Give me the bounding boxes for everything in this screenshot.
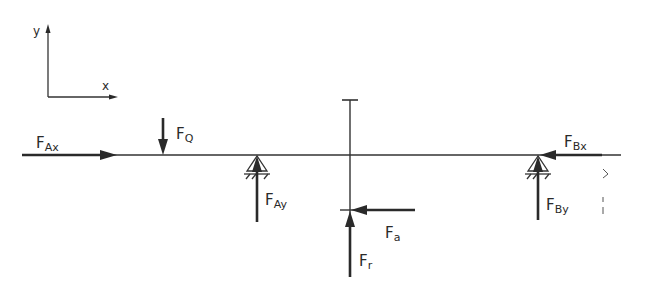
arrowhead-up-icon: [533, 156, 543, 172]
coordinate-axes: y x: [33, 24, 118, 100]
force-f-a: Fa: [351, 205, 415, 244]
y-axis-label: y: [33, 24, 40, 38]
x-axis-label: x: [102, 79, 109, 93]
force-f-bx: FBx: [540, 133, 602, 160]
svg-text:FQ: FQ: [176, 125, 194, 145]
arrowhead-up-icon: [345, 211, 355, 227]
arrowhead-right-icon: [100, 150, 117, 160]
x-axis-arrowhead-icon: [109, 95, 118, 100]
force-f-ax: FAx: [22, 134, 117, 160]
svg-text:Fr: Fr: [359, 252, 373, 272]
force-f-r: Fr: [345, 211, 373, 277]
force-f-q: FQ: [158, 118, 194, 155]
force-f-ay: FAy: [252, 156, 287, 222]
arrowhead-left-icon: [540, 150, 556, 160]
residual-marks: [603, 169, 608, 214]
svg-text:FBy: FBy: [546, 196, 569, 216]
arrowhead-down-icon: [158, 139, 168, 155]
svg-text:Fa: Fa: [385, 224, 400, 244]
svg-text:FAy: FAy: [265, 191, 287, 211]
force-f-by: FBy: [533, 156, 569, 220]
y-axis-arrowhead-icon: [46, 24, 51, 33]
arrowhead-up-icon: [252, 156, 262, 172]
svg-text:FAx: FAx: [36, 134, 59, 154]
svg-text:FBx: FBx: [564, 133, 587, 153]
free-body-diagram: y x FAx FQ FAy Fa: [0, 0, 655, 287]
arrowhead-left-icon: [351, 205, 367, 215]
